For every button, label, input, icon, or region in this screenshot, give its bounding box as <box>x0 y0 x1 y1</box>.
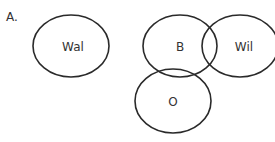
set-wal-label: Wal <box>62 40 84 54</box>
set-wil: Wil <box>202 15 275 77</box>
set-o-label: O <box>168 95 177 109</box>
set-b: B <box>143 15 217 77</box>
set-b-label: B <box>176 40 184 54</box>
set-wal: Wal <box>33 15 109 77</box>
set-o: O <box>135 69 211 133</box>
venn-diagram: Wal B Wil O <box>0 0 275 142</box>
set-wil-label: Wil <box>235 40 253 54</box>
